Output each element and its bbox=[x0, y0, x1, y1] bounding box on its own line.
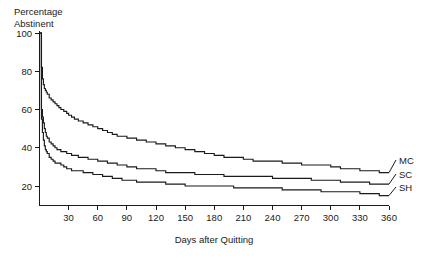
series-label-sc: SC bbox=[399, 169, 412, 180]
x-tick-label: 90 bbox=[122, 212, 133, 223]
x-tick-label: 300 bbox=[323, 212, 339, 223]
x-tick-label: 360 bbox=[381, 212, 397, 223]
x-tick-label: 60 bbox=[92, 212, 103, 223]
leader-line-mc bbox=[389, 160, 396, 173]
x-tick-label: 30 bbox=[63, 212, 74, 223]
x-tick-label: 270 bbox=[294, 212, 310, 223]
x-axis-title: Days after Quitting bbox=[175, 234, 254, 245]
chart-canvas: Percentage Abstinent 20406080100 3060901… bbox=[0, 0, 427, 260]
series-label-sh: SH bbox=[399, 182, 412, 193]
y-tick-label: 20 bbox=[21, 181, 32, 192]
y-axis-title: Percentage Abstinent bbox=[14, 6, 63, 29]
x-axis-ticks: 306090120150180210240270300330360 bbox=[63, 206, 397, 224]
curve-sh bbox=[40, 33, 390, 196]
series-label-mc: MC bbox=[399, 155, 414, 166]
x-tick-label: 120 bbox=[148, 212, 164, 223]
x-tick-label: 240 bbox=[265, 212, 281, 223]
x-tick-label: 210 bbox=[235, 212, 251, 223]
curve-mc bbox=[40, 33, 390, 173]
leader-line-sh bbox=[389, 187, 396, 196]
x-tick-label: 330 bbox=[352, 212, 368, 223]
y-tick-label: 100 bbox=[16, 28, 32, 39]
x-tick-label: 150 bbox=[177, 212, 193, 223]
series-labels: MCSCSH bbox=[389, 155, 414, 196]
y-axis-title-line1: Percentage bbox=[14, 6, 63, 17]
y-tick-label: 60 bbox=[21, 104, 32, 115]
y-axis-ticks: 20406080100 bbox=[16, 28, 39, 192]
x-tick-label: 180 bbox=[206, 212, 222, 223]
abstinence-survival-chart: Percentage Abstinent 20406080100 3060901… bbox=[0, 0, 427, 260]
y-tick-label: 40 bbox=[21, 142, 32, 153]
leader-line-sc bbox=[389, 174, 396, 184]
curve-sc bbox=[40, 33, 390, 184]
series-curves bbox=[40, 33, 390, 196]
y-tick-label: 80 bbox=[21, 66, 32, 77]
